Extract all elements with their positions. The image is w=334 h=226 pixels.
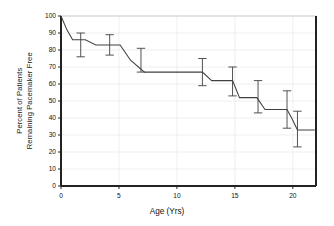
y-tick-label: 10 xyxy=(49,165,57,172)
x-tick-label: 20 xyxy=(289,192,297,199)
y-axis-title-line2: Remaining Pacemaker Free xyxy=(25,1,35,201)
gridlines xyxy=(61,16,316,186)
y-axis-title: Percent of Patients Remaining Pacemaker … xyxy=(0,0,34,226)
y-tick-label: 80 xyxy=(49,46,57,53)
y-tick-label: 50 xyxy=(49,97,57,104)
y-tick-label: 90 xyxy=(49,29,57,36)
y-tick-label: 100 xyxy=(45,12,56,19)
x-tick-label: 5 xyxy=(117,192,121,199)
y-tick-label: 20 xyxy=(49,148,57,155)
y-tick-label: 0 xyxy=(52,182,56,189)
x-tick-label: 0 xyxy=(59,192,63,199)
chart-plot: 010203040506070809010005101520 xyxy=(0,0,334,226)
y-tick-label: 40 xyxy=(49,114,57,121)
x-axis-title: Age (Yrs) xyxy=(0,207,334,216)
y-axis-title-line1: Percent of Patients xyxy=(15,1,25,201)
x-tick-label: 15 xyxy=(231,192,239,199)
y-tick-label: 60 xyxy=(49,80,57,87)
y-tick-label: 70 xyxy=(49,63,57,70)
figure-container: Percent of Patients Remaining Pacemaker … xyxy=(0,0,334,226)
y-tick-label: 30 xyxy=(49,131,57,138)
x-tick-label: 10 xyxy=(173,192,181,199)
